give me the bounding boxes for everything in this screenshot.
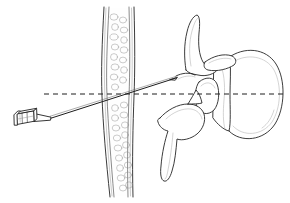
tissue-column <box>102 7 136 197</box>
illustration-canvas: Lateral spinal needle placement diagram <box>0 0 290 203</box>
anatomical-line-drawing <box>0 0 290 203</box>
